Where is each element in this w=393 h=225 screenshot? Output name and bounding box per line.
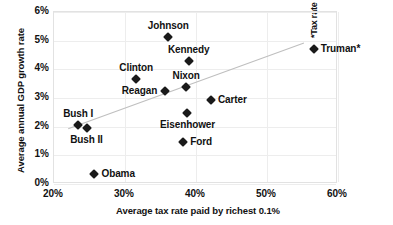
gridline-horizontal — [54, 155, 336, 156]
gridline-vertical — [267, 12, 268, 182]
y-tick-label: 3% — [15, 92, 49, 102]
x-tick-label: 50% — [244, 189, 288, 199]
data-point-marker — [73, 120, 83, 130]
data-point-marker — [309, 44, 319, 54]
data-point-label: Eisenhower — [160, 119, 215, 130]
gridline-horizontal — [54, 41, 336, 42]
x-tick-label: 20% — [31, 189, 75, 199]
y-tick-label: 4% — [15, 63, 49, 73]
data-point-label: Bush I — [63, 108, 93, 119]
data-point-marker — [82, 123, 92, 133]
data-point-marker — [183, 108, 193, 118]
data-point-label: Kennedy — [168, 44, 210, 55]
data-point-label: Obama — [101, 168, 134, 179]
gridline-horizontal — [54, 12, 336, 13]
x-tick-label: 30% — [102, 189, 146, 199]
data-point-label: Reagan — [122, 85, 158, 96]
y-tick-label: 0% — [15, 178, 49, 188]
plot-area: JohnsonKennedyClintonNixonReaganCarterEi… — [53, 11, 337, 183]
data-point-label: Ford — [190, 136, 212, 147]
data-point-marker — [181, 82, 191, 92]
data-point-marker — [90, 169, 100, 179]
data-point-label: Truman* — [321, 43, 360, 54]
data-point-marker — [206, 95, 216, 105]
y-tick-label: 5% — [15, 35, 49, 45]
y-tick-label: 2% — [15, 121, 49, 131]
data-point-marker — [184, 56, 194, 66]
gridline-vertical — [338, 12, 339, 182]
data-point-label: Nixon — [173, 70, 200, 81]
data-point-marker — [160, 86, 170, 96]
gridline-vertical — [125, 12, 126, 182]
data-point-label: Clinton — [119, 62, 153, 73]
gridline-vertical — [196, 12, 197, 182]
data-point-label: Bush II — [70, 134, 103, 145]
y-tick-label: 1% — [15, 149, 49, 159]
data-point-marker — [131, 74, 141, 84]
y-tick-label: 6% — [15, 6, 49, 16]
data-point-marker — [178, 137, 188, 147]
gridline-horizontal — [54, 184, 336, 185]
x-tick-label: 60% — [315, 189, 359, 199]
scatter-chart: Average annual GDP growth rate Average t… — [0, 0, 393, 225]
gridline-horizontal — [54, 98, 336, 99]
x-tick-label: 40% — [173, 189, 217, 199]
data-point-label: Carter — [218, 94, 247, 105]
data-point-label: Johnson — [148, 20, 189, 31]
x-axis-title: Average tax rate paid by richest 0.1% — [53, 205, 343, 216]
